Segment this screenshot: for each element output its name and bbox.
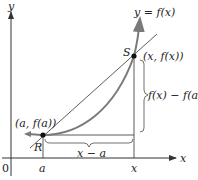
point-R [40, 132, 45, 137]
x-axis-label: x [180, 152, 187, 165]
point-S-coords: (x, f(x)) [143, 50, 184, 63]
tick-label-a: a [39, 162, 46, 175]
y-axis-label: y [7, 0, 15, 13]
horizontal-brace-label: x − a [77, 147, 106, 160]
point-S [131, 53, 136, 58]
tick-label-x: x [131, 162, 138, 175]
vertical-brace [140, 60, 148, 132]
curve-label: y = f(x) [133, 6, 175, 19]
curve-left-arrow [24, 131, 31, 137]
horizontal-brace [45, 139, 133, 147]
secant-diagram: y x 0 R (a, f(a)) S (x, f(x)) y = f(x) a… [0, 0, 198, 180]
secant-line [30, 34, 157, 148]
point-R-coords: (a, f(a)) [15, 117, 56, 130]
point-S-name: S [123, 46, 131, 59]
point-R-name: R [33, 141, 42, 154]
vertical-brace-label: f(x) − f(a) [147, 89, 198, 102]
origin-label: 0 [2, 162, 9, 175]
